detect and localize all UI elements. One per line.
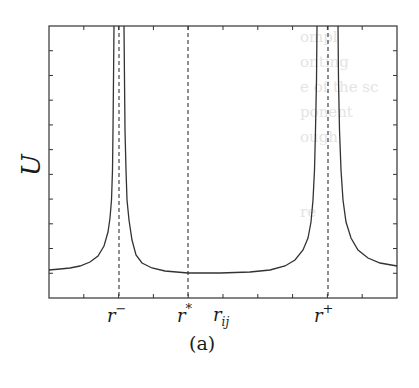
plot-frame [49,26,397,298]
plot [0,0,419,388]
y-axis-label: U [16,154,46,176]
x-axis-label: rij [213,306,229,328]
marker-label-r-minus: r− [107,304,127,325]
marker-label-r-star: r* [177,304,192,325]
figure-caption: (a) [189,332,215,354]
axis-ticks [49,26,397,298]
potential-curve [49,26,397,273]
marker-label-r-plus: r+ [314,304,334,325]
